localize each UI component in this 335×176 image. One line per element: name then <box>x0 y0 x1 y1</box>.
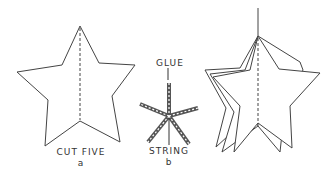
string-label: STRING <box>148 146 190 156</box>
cut-five-caption: CUT FIVE <box>56 147 106 157</box>
glued-spokes <box>140 68 198 145</box>
figure-b-label: b <box>159 157 179 167</box>
glue-label: GLUE <box>153 58 187 68</box>
figure-a-label: a <box>71 158 91 168</box>
assembled-star <box>205 8 320 152</box>
flat-star-outline <box>17 26 135 146</box>
